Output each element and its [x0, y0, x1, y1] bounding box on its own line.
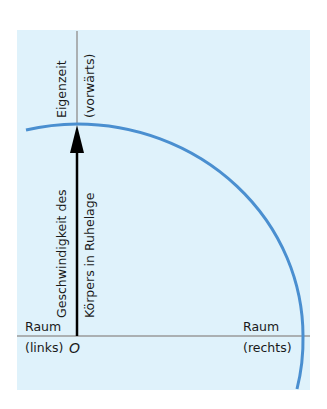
time-axis-label-1: Eigenzeit	[54, 60, 69, 118]
time-axis-label-2: (vorwärts)	[82, 54, 97, 118]
space-right-label-2: (rechts)	[243, 340, 292, 355]
arrow-label-1: Geschwindigkeit des	[54, 189, 69, 318]
spacetime-diagram: Eigenzeit (vorwärts) Geschwindigkeit des…	[0, 0, 327, 409]
space-left-label-2: (links)	[25, 340, 63, 355]
space-left-label-1: Raum	[25, 319, 61, 334]
origin-label: O	[69, 340, 80, 356]
space-right-label-1: Raum	[243, 319, 279, 334]
velocity-arrow-head	[70, 125, 84, 153]
arrow-label-2: Körpers in Ruhelage	[82, 192, 97, 318]
